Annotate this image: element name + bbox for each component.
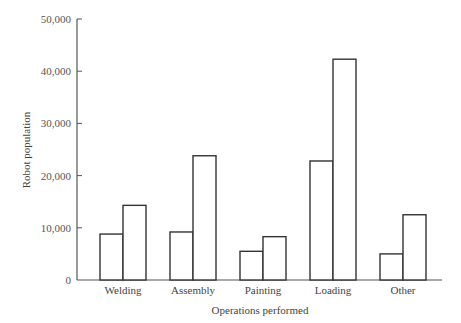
bar-painting-1 — [240, 251, 263, 280]
x-category-label: Painting — [245, 284, 282, 296]
bar-loading-1 — [310, 161, 333, 280]
bar-other-1 — [380, 254, 403, 280]
bar-welding-2 — [123, 205, 146, 280]
x-category-label: Loading — [315, 284, 352, 296]
y-tick-label: 0 — [66, 274, 72, 286]
bar-assembly-2 — [193, 156, 216, 280]
bar-chart: 010,00020,00030,00040,00050,000WeldingAs… — [0, 0, 461, 323]
y-tick-label: 40,000 — [41, 65, 72, 77]
y-tick-label: 50,000 — [41, 13, 72, 25]
bar-loading-2 — [333, 59, 356, 280]
y-axis-title: Robot population — [20, 111, 32, 188]
x-category-label: Other — [390, 284, 415, 296]
bar-painting-2 — [263, 237, 286, 280]
bar-other-2 — [403, 215, 426, 280]
bar-welding-1 — [100, 234, 123, 280]
y-tick-label: 20,000 — [41, 170, 72, 182]
x-axis-title: Operations performed — [212, 304, 309, 316]
x-category-label: Assembly — [171, 284, 216, 296]
bars — [100, 59, 426, 280]
y-tick-label: 30,000 — [41, 117, 72, 129]
bar-assembly-1 — [170, 232, 193, 280]
x-category-label: Welding — [105, 284, 142, 296]
y-tick-label: 10,000 — [41, 222, 72, 234]
